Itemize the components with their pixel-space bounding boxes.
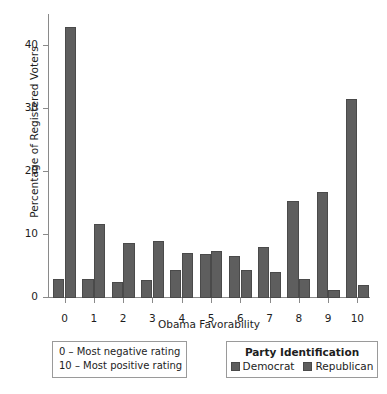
- legend-swatch-icon: [231, 362, 240, 371]
- bar: [200, 254, 211, 298]
- bar: [299, 279, 310, 298]
- y-tick-label: 0: [31, 290, 38, 302]
- y-tick-label: 30: [25, 101, 38, 113]
- plot-wrapper: Percentage of Registered Voters 01020304…: [0, 0, 387, 320]
- legend-title: Party Identification: [231, 345, 373, 359]
- y-tick-label: 20: [25, 164, 38, 176]
- bar: [287, 201, 298, 298]
- rating-scale-note: 0 – Most negative rating 10 – Most posit…: [52, 341, 187, 378]
- bar: [141, 280, 152, 298]
- note-line-positive: 10 – Most positive rating: [59, 359, 180, 373]
- y-axis-line: [48, 14, 49, 298]
- bar: [358, 285, 369, 298]
- bar: [229, 256, 240, 298]
- bar: [270, 272, 281, 298]
- plot-area: 010203040 012345678910: [48, 14, 370, 298]
- y-tick: 0: [43, 297, 49, 298]
- y-tick: 10: [43, 234, 49, 235]
- legend-items: DemocratRepublican: [231, 359, 373, 373]
- bar: [328, 290, 339, 298]
- bar: [211, 251, 222, 298]
- legend-item-label: Democrat: [243, 359, 295, 373]
- y-tick-label: 10: [25, 227, 38, 239]
- bar: [317, 192, 328, 298]
- bar: [94, 224, 105, 298]
- bar: [170, 270, 181, 298]
- bar: [53, 279, 64, 298]
- bar: [82, 279, 93, 298]
- bar-chart-figure: Percentage of Registered Voters 01020304…: [0, 0, 387, 394]
- note-line-negative: 0 – Most negative rating: [59, 345, 180, 359]
- bar: [112, 282, 123, 298]
- bar: [258, 247, 269, 298]
- y-tick: 40: [43, 45, 49, 46]
- y-tick: 20: [43, 171, 49, 172]
- y-tick: 30: [43, 108, 49, 109]
- bar: [346, 99, 357, 298]
- legend-item: Republican: [303, 359, 373, 373]
- legend-swatch-icon: [303, 362, 312, 371]
- bar: [65, 27, 76, 298]
- legend-item-label: Republican: [315, 359, 373, 373]
- bar: [241, 270, 252, 298]
- y-tick-label: 40: [25, 38, 38, 50]
- bar: [182, 253, 193, 298]
- bar: [153, 241, 164, 298]
- legend: Party Identification DemocratRepublican: [226, 341, 378, 378]
- legend-item: Democrat: [231, 359, 295, 373]
- bar: [123, 243, 134, 298]
- x-axis-title: Obama Favorability: [48, 318, 370, 330]
